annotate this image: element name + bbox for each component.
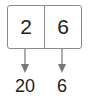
down-arrow-icon <box>20 49 30 74</box>
cell-value: 2 <box>20 15 32 39</box>
cell-value: 6 <box>57 15 69 39</box>
output-label: 20 <box>10 76 40 97</box>
down-arrow-icon <box>57 49 67 74</box>
array-cell: 6 <box>44 5 82 49</box>
output-label: 6 <box>47 76 77 97</box>
array-cell: 2 <box>7 5 45 49</box>
